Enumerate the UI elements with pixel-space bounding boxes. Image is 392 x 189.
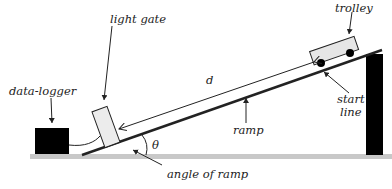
angle-arc xyxy=(142,135,147,155)
ramp-label: ramp xyxy=(233,123,264,137)
light-gate-pointer xyxy=(104,26,112,100)
data-logger-pointer xyxy=(51,98,52,123)
trolley-wheel-rear xyxy=(317,59,325,67)
theta-label: θ xyxy=(152,138,159,152)
distance-label: d xyxy=(206,73,213,87)
light-gate xyxy=(92,106,120,147)
ramp-experiment-diagram: trolley light gate data-logger d start l… xyxy=(0,0,392,189)
distance-arrow xyxy=(119,62,314,129)
light-gate-label: light gate xyxy=(110,12,166,26)
data-logger-cable xyxy=(69,136,100,145)
start-line-label-1: start xyxy=(337,92,365,106)
ramp-support-block xyxy=(366,54,383,155)
start-line-pointer xyxy=(324,72,349,93)
trolley-pointer xyxy=(349,12,352,34)
angle-of-ramp-label: angle of ramp xyxy=(167,167,249,181)
trolley-label: trolley xyxy=(335,1,373,15)
data-logger xyxy=(35,128,69,154)
start-line-label-2: line xyxy=(340,105,362,119)
trolley-wheel-front xyxy=(346,49,354,57)
data-logger-label: data-logger xyxy=(9,84,78,98)
